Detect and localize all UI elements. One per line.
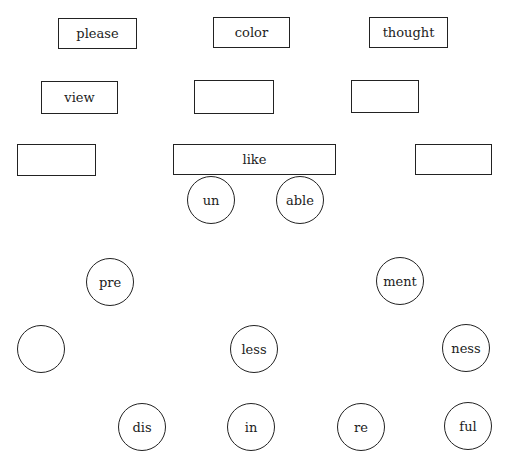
root-word-box-empty	[351, 80, 419, 113]
affix-circle-ment: ment	[376, 257, 424, 305]
root-word-box-thought: thought	[369, 17, 448, 48]
root-word-box-view: view	[41, 81, 118, 114]
affix-circle-able: able	[276, 176, 324, 224]
root-word-box-empty	[17, 144, 96, 176]
root-word-box-color: color	[213, 17, 290, 48]
root-word-box-empty	[194, 80, 274, 114]
affix-circle-un: un	[187, 176, 235, 224]
affix-circle-less: less	[230, 325, 278, 373]
affix-circle-dis: dis	[118, 403, 166, 451]
root-word-box-please: please	[58, 18, 137, 49]
root-word-box-empty	[415, 144, 492, 175]
affix-circle-ness: ness	[442, 324, 490, 372]
affix-circle-in: in	[227, 403, 275, 451]
root-word-box-like: like	[173, 144, 336, 175]
affix-circle-re: re	[337, 403, 385, 451]
affix-circle-pre: pre	[86, 258, 134, 306]
affix-circle-empty	[17, 325, 65, 373]
affix-circle-ful: ful	[444, 402, 492, 450]
